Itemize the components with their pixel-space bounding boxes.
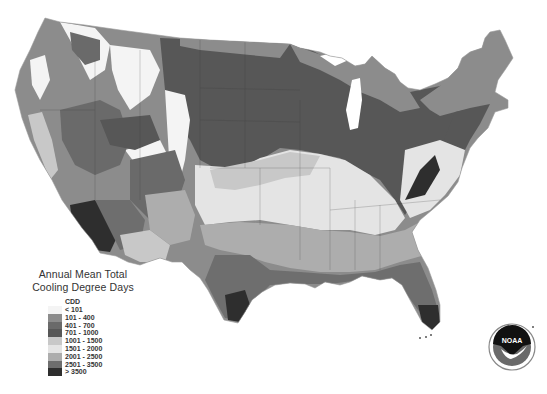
legend-row: 2501 - 3500	[48, 361, 102, 369]
legend-row: 1001 - 1500	[48, 337, 102, 345]
legend-row: < 101	[48, 306, 102, 314]
legend-label: 2501 - 3500	[65, 361, 102, 369]
legend-swatch	[48, 322, 62, 330]
legend-swatch	[48, 337, 62, 345]
legend-row: > 3500	[48, 368, 102, 376]
noaa-logo-icon: NOAA	[487, 322, 537, 372]
legend-row: 101 - 400	[48, 314, 102, 322]
legend-row: 2001 - 2500	[48, 353, 102, 361]
legend-swatch	[48, 329, 62, 337]
legend: Annual Mean Total Cooling Degree Days CD…	[28, 268, 138, 294]
legend-label: 1001 - 1500	[65, 337, 102, 345]
legend-title-line2: Cooling Degree Days	[28, 281, 138, 294]
legend-label: 1501 - 2000	[65, 345, 102, 353]
legend-title-line1: Annual Mean Total	[28, 268, 138, 281]
legend-swatch	[48, 368, 62, 376]
legend-swatch	[48, 345, 62, 353]
legend-label: < 101	[65, 306, 83, 314]
legend-body: CDD < 101 101 - 400 401 - 700 701 - 1000…	[48, 298, 102, 376]
legend-unit: CDD	[65, 298, 102, 306]
legend-swatch	[48, 306, 62, 314]
legend-row: 401 - 700	[48, 322, 102, 330]
noaa-logo: NOAA	[487, 322, 537, 372]
legend-label: 2001 - 2500	[65, 353, 102, 361]
legend-label: > 3500	[65, 368, 87, 376]
legend-row: 1501 - 2000	[48, 345, 102, 353]
legend-label: 401 - 700	[65, 322, 95, 330]
legend-swatch	[48, 353, 62, 361]
legend-label: 701 - 1000	[65, 329, 98, 337]
noaa-logo-text: NOAA	[502, 337, 523, 344]
legend-row: 701 - 1000	[48, 329, 102, 337]
legend-swatch	[48, 314, 62, 322]
legend-label: 101 - 400	[65, 314, 95, 322]
legend-swatch	[48, 361, 62, 369]
